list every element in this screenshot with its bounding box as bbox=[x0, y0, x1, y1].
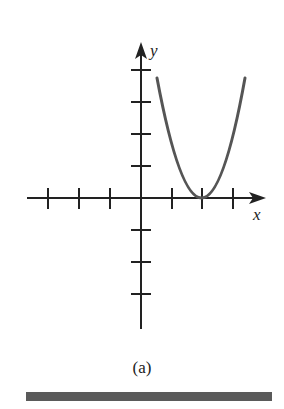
x-axis bbox=[27, 188, 266, 209]
y-axis bbox=[131, 42, 151, 329]
x-axis-label: x bbox=[252, 205, 261, 224]
separator-bar bbox=[26, 392, 272, 401]
parabola-curve bbox=[157, 78, 245, 198]
figure-caption: (a) bbox=[0, 358, 284, 378]
y-axis-label: y bbox=[148, 41, 158, 60]
parabola-figure: x y bbox=[0, 0, 284, 409]
